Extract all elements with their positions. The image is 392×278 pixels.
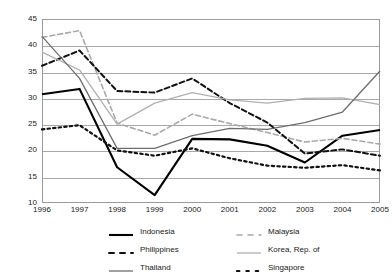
legend-swatch-icon <box>236 262 262 272</box>
y-tick-label: 40 <box>28 41 37 49</box>
legend-label: Singapore <box>268 263 304 272</box>
series-line-thailand <box>42 36 380 148</box>
y-tick-label: 35 <box>28 68 37 76</box>
legend-swatch-icon <box>108 244 134 254</box>
legend-swatch-icon <box>108 262 134 272</box>
x-tick-label: 1999 <box>146 205 164 215</box>
legend-item-indonesia[interactable]: Indonesia <box>108 224 236 238</box>
x-tick-label: 1996 <box>33 205 51 215</box>
legend-swatch-icon <box>108 226 134 236</box>
y-tick-label: 25 <box>28 120 37 128</box>
chart-legend: IndonesiaMalaysiaPhilippinesKorea, Rep. … <box>108 224 368 276</box>
x-tick-label: 1998 <box>108 205 126 215</box>
y-tick-label: 30 <box>28 94 37 102</box>
line-chart: 1015202530354045 19961997199819992000200… <box>0 0 392 278</box>
x-tick-label: 2004 <box>334 205 352 215</box>
y-tick-label: 15 <box>28 173 37 181</box>
legend-label: Indonesia <box>140 227 175 236</box>
legend-item-philippines[interactable]: Philippines <box>108 242 236 256</box>
legend-item-thailand[interactable]: Thailand <box>108 260 236 274</box>
legend-label: Philippines <box>140 245 179 254</box>
y-tick-label: 20 <box>28 146 37 154</box>
legend-item-malaysia[interactable]: Malaysia <box>236 224 368 238</box>
legend-swatch-icon <box>236 226 262 236</box>
x-axis: 1996199719981999200020012002200320042005 <box>42 205 380 221</box>
series-layer <box>42 19 380 203</box>
legend-item-korea-rep-of[interactable]: Korea, Rep. of <box>236 242 368 256</box>
x-tick-label: 2005 <box>371 205 389 215</box>
series-line-malaysia <box>42 31 380 145</box>
legend-swatch-icon <box>236 244 262 254</box>
series-line-indonesia <box>42 89 380 195</box>
x-tick-label: 2001 <box>221 205 239 215</box>
y-tick-label: 45 <box>28 15 37 23</box>
legend-item-singapore[interactable]: Singapore <box>236 260 368 274</box>
legend-label: Malaysia <box>268 227 300 236</box>
legend-label: Thailand <box>140 263 171 272</box>
x-tick-label: 1997 <box>71 205 89 215</box>
x-tick-label: 2000 <box>183 205 201 215</box>
x-tick-label: 2003 <box>296 205 314 215</box>
y-axis: 1015202530354045 <box>0 0 42 222</box>
x-tick-label: 2002 <box>258 205 276 215</box>
legend-label: Korea, Rep. of <box>268 245 320 254</box>
